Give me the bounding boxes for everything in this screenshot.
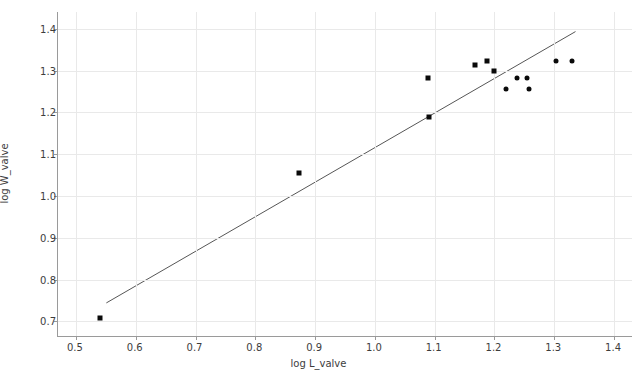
data-point <box>525 76 530 81</box>
scatter-plot-figure: log L_valve log W_valve 0.50.60.70.80.91… <box>0 0 637 379</box>
x-tick-mark <box>614 336 615 340</box>
x-gridline <box>315 12 316 336</box>
data-point <box>473 63 478 68</box>
y-gridline <box>58 321 632 322</box>
data-point <box>425 76 430 81</box>
x-gridline <box>375 12 376 336</box>
x-gridline <box>76 12 77 336</box>
y-tick-label: 1.3 <box>40 65 56 76</box>
x-tick-label: 1.0 <box>366 342 382 353</box>
y-gridline <box>58 29 632 30</box>
y-gridline <box>58 71 632 72</box>
data-point <box>515 76 520 81</box>
x-tick-mark <box>255 336 256 340</box>
x-tick-label: 1.4 <box>605 342 621 353</box>
data-point <box>98 316 103 321</box>
data-point <box>526 87 531 92</box>
y-axis-label: log W_valve <box>0 94 10 254</box>
x-axis-label: log L_valve <box>0 358 637 369</box>
x-tick-label: 0.7 <box>187 342 203 353</box>
x-tick-mark <box>76 336 77 340</box>
data-point <box>504 86 509 91</box>
data-point <box>570 58 575 63</box>
y-gridline <box>58 154 632 155</box>
x-tick-mark <box>375 336 376 340</box>
x-tick-label: 0.5 <box>67 342 83 353</box>
x-gridline <box>435 12 436 336</box>
y-tick-label: 0.8 <box>40 274 56 285</box>
trendline <box>58 12 632 336</box>
x-tick-label: 0.8 <box>246 342 262 353</box>
x-tick-label: 0.6 <box>127 342 143 353</box>
x-gridline <box>255 12 256 336</box>
y-gridline <box>58 238 632 239</box>
x-tick-mark <box>196 336 197 340</box>
data-point <box>492 68 497 73</box>
y-gridline <box>58 196 632 197</box>
x-gridline <box>494 12 495 336</box>
x-tick-label: 1.1 <box>426 342 442 353</box>
y-tick-label: 1.4 <box>40 23 56 34</box>
x-tick-mark <box>554 336 555 340</box>
y-tick-label: 0.7 <box>40 316 56 327</box>
x-tick-label: 1.3 <box>545 342 561 353</box>
y-tick-label: 1.2 <box>40 107 56 118</box>
x-gridline <box>136 12 137 336</box>
x-tick-mark <box>315 336 316 340</box>
x-tick-mark <box>494 336 495 340</box>
data-point <box>426 114 431 119</box>
plot-area <box>57 12 632 337</box>
y-tick-label: 0.9 <box>40 232 56 243</box>
y-gridline <box>58 112 632 113</box>
x-gridline <box>196 12 197 336</box>
y-tick-label: 1.0 <box>40 190 56 201</box>
data-point <box>554 58 559 63</box>
x-tick-label: 1.2 <box>486 342 502 353</box>
y-tick-label: 1.1 <box>40 149 56 160</box>
data-point <box>484 58 489 63</box>
x-tick-label: 0.9 <box>306 342 322 353</box>
x-tick-mark <box>136 336 137 340</box>
x-gridline <box>614 12 615 336</box>
data-point <box>296 170 301 175</box>
x-tick-mark <box>435 336 436 340</box>
y-gridline <box>58 280 632 281</box>
